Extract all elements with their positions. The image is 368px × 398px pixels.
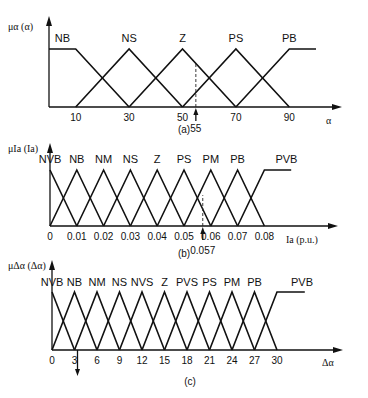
membership-ns xyxy=(76,49,183,107)
x-tick-label: 30 xyxy=(124,112,136,123)
membership-pm xyxy=(184,170,238,226)
membership-nb xyxy=(52,292,97,350)
y-axis-label: μIa (Ia) xyxy=(8,143,38,155)
x-tick-label: 0 xyxy=(47,231,53,242)
set-label-pvb: PVB xyxy=(275,153,297,165)
membership-z xyxy=(129,49,236,107)
set-label-pm: PM xyxy=(203,153,220,165)
membership-nm xyxy=(77,170,131,226)
membership-nvs xyxy=(120,292,165,350)
set-label-z: Z xyxy=(179,32,186,44)
membership-z xyxy=(130,170,184,226)
set-label-ns: NS xyxy=(112,276,127,288)
y-axis-arrow-icon xyxy=(47,143,53,153)
x-tick-label: 24 xyxy=(226,355,238,366)
x-tick-label: 9 xyxy=(117,355,123,366)
x-axis-label: Δα xyxy=(322,357,334,368)
x-tick-label: 0.02 xyxy=(94,231,114,242)
membership-pm xyxy=(210,292,255,350)
membership-nb xyxy=(50,170,104,226)
set-label-pvs: PVS xyxy=(176,276,198,288)
x-axis-label: α xyxy=(326,115,332,126)
set-label-ps: PS xyxy=(202,276,217,288)
marker-arrow-down-icon xyxy=(75,369,80,376)
x-tick-label: 30 xyxy=(271,355,283,366)
x-tick-label: 90 xyxy=(284,112,296,123)
x-tick-label: 21 xyxy=(204,355,216,366)
set-label-ns: NS xyxy=(123,153,138,165)
x-tick-label: 18 xyxy=(181,355,193,366)
chart-c-delta-alpha-membership: μΔα (Δα)ΔαNVBNBNMNSNVSZPVSPSPMPBPVB03691… xyxy=(8,260,343,387)
membership-pb xyxy=(232,292,277,350)
membership-pvb xyxy=(238,170,292,226)
set-label-ps: PS xyxy=(229,32,244,44)
membership-ps xyxy=(187,292,232,350)
set-label-nm: NM xyxy=(95,153,112,165)
set-label-pvb: PVB xyxy=(291,276,313,288)
x-tick-label: 3 xyxy=(72,355,78,366)
x-tick-label: 0 xyxy=(49,355,55,366)
y-axis-label: μΔα (Δα) xyxy=(8,260,46,272)
chart-b-current-membership: μIa (Ia)Ia (p.u.)NVBNBNMNSZPSPMPBPVB00.0… xyxy=(8,143,338,259)
membership-pb xyxy=(236,49,316,107)
x-tick-label: 12 xyxy=(136,355,148,366)
x-axis-arrow-icon xyxy=(333,347,343,353)
x-tick-label: 0.07 xyxy=(228,231,248,242)
x-tick-label: 0.04 xyxy=(147,231,167,242)
set-label-nb: NB xyxy=(67,276,82,288)
x-axis-label: Ia (p.u.) xyxy=(286,234,318,246)
set-label-nb: NB xyxy=(55,32,70,44)
marker-value-label: 55 xyxy=(190,123,202,134)
x-tick-label: 70 xyxy=(230,112,242,123)
x-tick-label: 0.01 xyxy=(67,231,87,242)
marker-value-label: 0.057 xyxy=(190,245,215,256)
membership-ns xyxy=(104,170,158,226)
membership-pb xyxy=(211,170,265,226)
x-tick-label: 50 xyxy=(177,112,189,123)
chart-caption: (b) xyxy=(178,248,190,259)
membership-nm xyxy=(75,292,120,350)
set-label-nvs: NVS xyxy=(131,276,154,288)
set-label-z: Z xyxy=(161,276,168,288)
membership-pvs xyxy=(165,292,210,350)
x-tick-label: 0.03 xyxy=(121,231,141,242)
set-label-ps: PS xyxy=(177,153,192,165)
set-label-pm: PM xyxy=(224,276,241,288)
set-label-nvb: NVB xyxy=(41,276,64,288)
chart-a-alpha-membership: μα (α)αNBNSZPSPB103050709055(a) xyxy=(8,16,342,135)
set-label-ns: NS xyxy=(121,32,136,44)
x-tick-label: 27 xyxy=(249,355,261,366)
marker-arrow-up-icon xyxy=(193,108,198,115)
set-label-pb: PB xyxy=(230,153,245,165)
y-axis-label: μα (α) xyxy=(8,21,33,33)
x-axis-arrow-icon xyxy=(332,104,342,110)
set-label-nb: NB xyxy=(69,153,84,165)
chart-caption: (c) xyxy=(184,376,196,387)
set-label-nm: NM xyxy=(88,276,105,288)
x-tick-label: 6 xyxy=(94,355,100,366)
set-label-z: Z xyxy=(154,153,161,165)
y-axis-arrow-icon xyxy=(46,16,52,26)
chart-caption: (a) xyxy=(178,124,190,135)
y-axis-arrow-icon xyxy=(49,260,55,270)
x-tick-label: 0.05 xyxy=(174,231,194,242)
x-axis-arrow-icon xyxy=(328,223,338,229)
membership-nb xyxy=(49,49,129,107)
membership-z xyxy=(142,292,187,350)
x-tick-label: 0.08 xyxy=(255,231,275,242)
set-label-nvb: NVB xyxy=(39,153,62,165)
membership-ns xyxy=(97,292,142,350)
x-tick-label: 10 xyxy=(70,112,82,123)
membership-ps xyxy=(183,49,290,107)
set-label-pb: PB xyxy=(247,276,262,288)
set-label-pb: PB xyxy=(282,32,297,44)
x-tick-label: 15 xyxy=(159,355,171,366)
membership-pvb xyxy=(255,292,305,350)
fuzzy-membership-figure: μα (α)αNBNSZPSPB103050709055(a) μIa (Ia)… xyxy=(0,0,368,398)
